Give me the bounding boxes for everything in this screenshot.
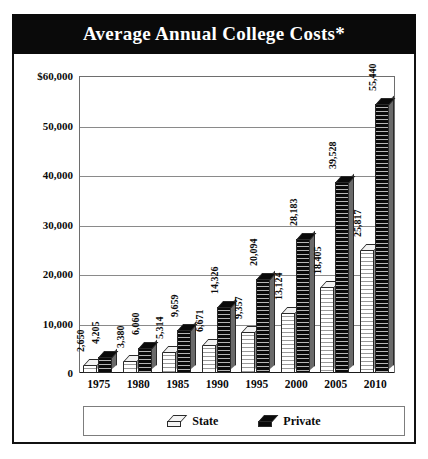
x-axis-tick-label: 1990 [198,378,238,390]
bar-private[interactable]: 14,326 [217,302,231,373]
legend-label: State [192,414,218,429]
chart-title-banner: Average Annual College Costs* [12,14,416,54]
legend-item-private[interactable]: Private [258,414,320,429]
bar-body [281,313,295,373]
bar-body [320,287,334,373]
bar-side-face [389,95,394,369]
bar-value-label: 9,357 [233,296,244,319]
y-axis-tick-label: 20,000 [43,268,73,280]
bar-value-label: 13,124 [273,273,284,301]
plot-area-wrapper: 2,6504,2053,3806,0605,3149,6596,67114,32… [79,76,395,373]
chart-figure: Average Annual College Costs* $60,00050,… [0,0,428,459]
bar-group: 5,3149,659 [162,76,196,373]
bar-body [296,239,310,374]
bar-private[interactable]: 28,183 [296,234,310,374]
x-axis-tick-label: 2010 [356,378,396,390]
x-axis-tick-label: 1975 [79,378,119,390]
x-axis-tick-label: 2000 [277,378,317,390]
bar-body [241,332,255,373]
x-axis-tick-label: 2005 [316,378,356,390]
x-axis-labels: 19751980198519901995200020052010 [79,376,395,396]
bar-group: 25,81755,440 [360,76,394,373]
bar-value-label: 20,094 [248,238,259,266]
y-axis-labels: $60,00050,00040,00030,00020,00010,0000 [10,76,73,373]
chart-legend: StatePrivate [83,406,405,436]
bar-private[interactable]: 55,440 [375,99,389,373]
y-axis-tick-label: 0 [68,367,74,379]
bar-group: 6,67114,326 [202,76,236,373]
bar-state[interactable]: 5,314 [162,347,176,373]
bar-private[interactable]: 6,060 [138,343,152,373]
bar-state[interactable]: 2,650 [83,360,97,373]
bar-body [162,352,176,373]
bar-value-label: 39,528 [327,142,338,170]
bar-value-label: 4,205 [90,322,101,345]
bar-value-label: 3,380 [115,326,126,349]
bar-value-label: 6,060 [130,313,141,336]
y-axis-tick-label: 30,000 [43,219,73,231]
bar-value-label: 6,671 [194,309,205,332]
bar-body [83,365,97,373]
bar-body [98,357,112,373]
bar-body [256,279,270,373]
bar-body [202,345,216,373]
swatch-body [258,421,272,427]
bar-state[interactable]: 9,357 [241,327,255,373]
bar-state[interactable]: 6,671 [202,340,216,373]
bar-private[interactable]: 20,094 [256,274,270,373]
bar-body [177,330,191,373]
page-title: Average Annual College Costs* [83,23,345,45]
private-swatch-icon [258,415,276,427]
bar-private[interactable]: 39,528 [335,177,349,373]
y-axis-tick-label: 40,000 [43,169,73,181]
y-axis-tick-label: 10,000 [43,318,73,330]
bar-value-label: 55,440 [367,63,378,91]
legend-label: Private [283,414,320,429]
bar-body [335,182,349,373]
bar-private[interactable]: 9,659 [177,325,191,373]
x-axis-tick-label: 1980 [119,378,159,390]
y-axis-tick-label: 50,000 [43,120,73,132]
y-axis-tick-label: $60,000 [37,70,73,82]
bar-private[interactable]: 4,205 [98,352,112,373]
bar-value-label: 9,659 [169,295,180,318]
legend-item-state[interactable]: State [167,414,218,429]
bar-body [360,250,374,373]
bar-group: 3,3806,060 [123,76,157,373]
bar-value-label: 25,817 [352,210,363,238]
bar-side-face [349,174,354,369]
bar-group: 18,40539,528 [320,76,354,373]
swatch-body [167,421,181,427]
bar-value-label: 14,326 [209,267,220,295]
bar-body [217,307,231,373]
bar-state[interactable]: 13,124 [281,308,295,373]
bar-state[interactable]: 18,405 [320,282,334,373]
bar-state[interactable]: 3,380 [123,356,137,373]
bar-value-label: 2,650 [75,329,86,352]
state-swatch-icon [167,415,185,427]
bar-group: 2,6504,205 [83,76,117,373]
bar-state[interactable]: 25,817 [360,245,374,373]
bar-body [375,104,389,373]
bar-group: 13,12428,183 [281,76,315,373]
bar-body [138,348,152,373]
bar-value-label: 18,405 [312,246,323,274]
bar-body [123,361,137,373]
x-axis-tick-label: 1995 [237,378,277,390]
bar-value-label: 5,314 [154,316,165,339]
bar-group: 9,35720,094 [241,76,275,373]
x-axis-tick-label: 1985 [158,378,198,390]
plot-area: 2,6504,2053,3806,0605,3149,6596,67114,32… [79,76,395,373]
bar-value-label: 28,183 [288,198,299,226]
